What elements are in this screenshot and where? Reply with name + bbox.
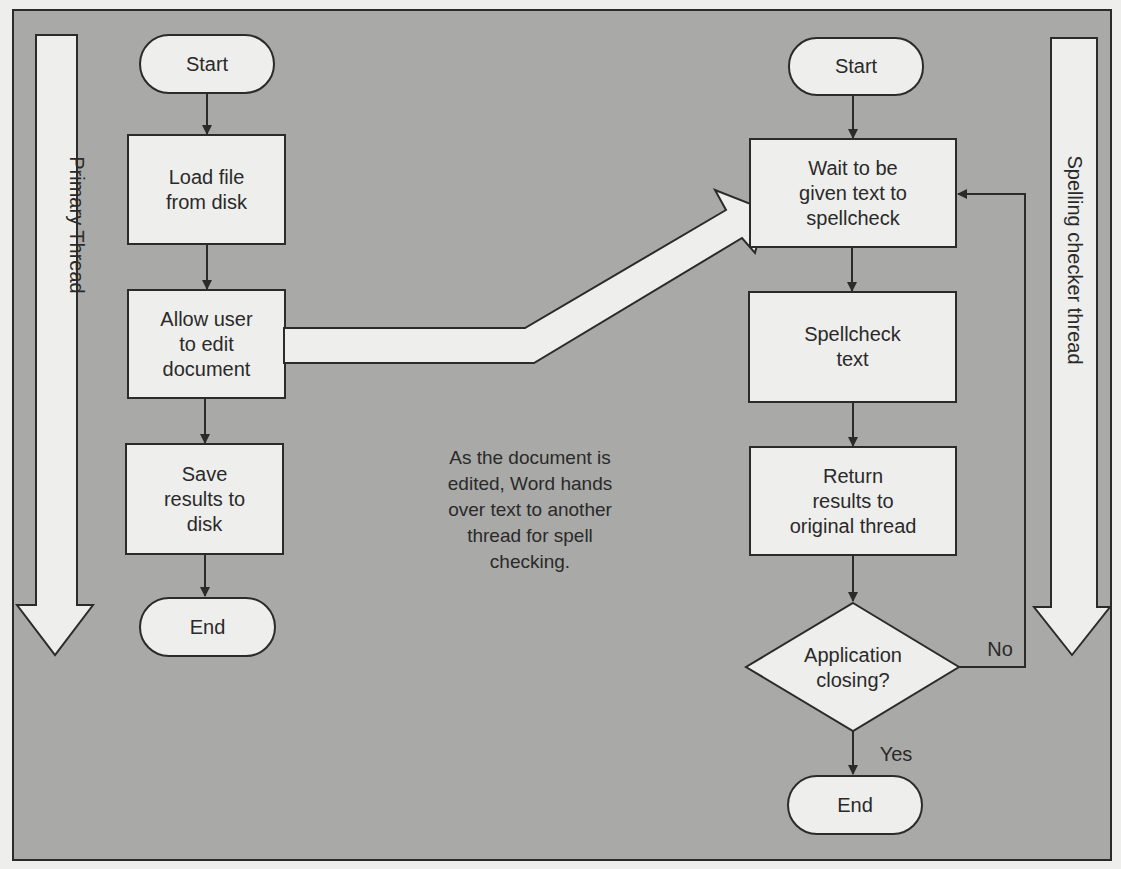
decision-label: Application closing? xyxy=(760,640,946,696)
spell-end-label: End xyxy=(788,776,922,834)
wait-for-text-label: Wait to be given text to spellcheck xyxy=(750,139,956,247)
return-results-label: Return results to original thread xyxy=(750,447,956,555)
no-branch-label: No xyxy=(983,636,1017,662)
spell-start-label: Start xyxy=(789,38,923,95)
spellcheck-text-label: Spellcheck text xyxy=(749,292,956,402)
thread-flowchart: Primary Thread Spelling checker thread S… xyxy=(0,0,1121,869)
primary-end-label: End xyxy=(140,598,275,656)
flowchart-canvas xyxy=(0,0,1121,869)
edit-document-label: Allow user to edit document xyxy=(128,290,285,398)
primary-start-label: Start xyxy=(140,35,274,93)
primary-thread-label: Primary Thread xyxy=(64,130,90,320)
load-file-label: Load file from disk xyxy=(128,135,285,244)
yes-branch-label: Yes xyxy=(876,741,916,767)
spelling-thread-label: Spelling checker thread xyxy=(1062,140,1088,380)
handoff-annotation: As the document is edited, Word hands ov… xyxy=(380,440,680,580)
save-results-label: Save results to disk xyxy=(126,444,283,554)
